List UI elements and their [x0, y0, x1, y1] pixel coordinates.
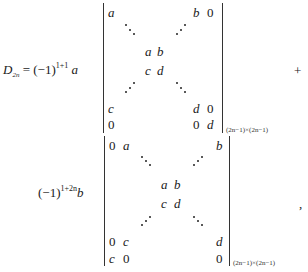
m2-ddots-tl	[145, 160, 147, 162]
lhs-symbol: D	[3, 62, 12, 77]
m1-top-b: b	[193, 6, 200, 19]
term1-coef-base: (−1)	[33, 62, 56, 77]
m2-adots-bl	[145, 220, 147, 222]
m2-adots-tr	[193, 164, 195, 166]
m1-ddots-br	[184, 91, 186, 93]
m1-center-b: b	[157, 45, 164, 58]
m1-ddots-tl	[133, 33, 135, 35]
m2-ddots-br	[193, 216, 195, 218]
m2-top-0: 0	[109, 139, 116, 152]
m1-center-c: c	[145, 64, 151, 77]
det2-size: (2n−1)×(2n−1)	[233, 259, 275, 267]
m1-adots-tr	[184, 24, 186, 26]
det1-left-bar	[103, 3, 104, 133]
m1-top-a: a	[108, 6, 115, 19]
term2-coef-base: (−1)	[38, 185, 61, 200]
m2-center-c: c	[161, 197, 167, 210]
m2-pen-c: c	[123, 235, 129, 248]
m2-adots-tr	[197, 160, 199, 162]
det2-right-bar	[229, 136, 230, 266]
m1-pen-d: d	[193, 102, 200, 115]
det2-left-bar	[104, 136, 105, 266]
m1-ddots-br	[180, 87, 182, 89]
m1-adots-bl	[125, 91, 127, 93]
trailing-comma: ,	[299, 197, 302, 210]
m2-ddots-tl	[141, 156, 143, 158]
det1-right-bar	[222, 3, 223, 133]
m1-pen-c: c	[108, 102, 114, 115]
m2-top-b: b	[216, 139, 223, 152]
m2-ddots-tl	[149, 164, 151, 166]
m2-ddots-br	[197, 220, 199, 222]
m1-ddots-tl	[129, 29, 131, 31]
m2-pen-0: 0	[109, 235, 116, 248]
term2-coef-var: b	[77, 185, 84, 200]
m1-adots-bl	[129, 87, 131, 89]
m2-adots-bl	[141, 224, 143, 226]
lhs: D2n = (−1)1+1 a	[3, 63, 78, 79]
m2-pen-d: d	[216, 235, 223, 248]
m2-top-a: a	[123, 139, 130, 152]
m2-center-a: a	[161, 178, 168, 191]
m2-adots-tr	[201, 156, 203, 158]
m2-bot-0b: 0	[216, 252, 223, 265]
m1-ddots-tl	[125, 24, 127, 26]
term1-coef-var: a	[72, 62, 79, 77]
m2-ddots-br	[201, 224, 203, 226]
m1-bot-0a: 0	[108, 118, 115, 131]
m1-pen-0: 0	[207, 102, 214, 115]
equals-sign: =	[23, 62, 30, 77]
m2-bot-c: c	[109, 252, 115, 265]
m1-top-0: 0	[207, 6, 214, 19]
plus-operator: +	[294, 64, 301, 77]
m2-adots-bl	[149, 216, 151, 218]
lhs-subscript: 2n	[12, 71, 19, 79]
m2-center-d: d	[174, 197, 181, 210]
term2-coef-exp: 1+2n	[61, 184, 78, 193]
m1-center-a: a	[145, 45, 152, 58]
m1-center-d: d	[157, 64, 164, 77]
m1-adots-tr	[180, 29, 182, 31]
term1-coef-exp: 1+1	[56, 61, 69, 70]
det1-size: (2n−1)×(2n−1)	[226, 126, 268, 134]
term2-coef: (−1)1+2nb	[38, 186, 84, 201]
m1-bot-0b: 0	[193, 118, 200, 131]
m2-bot-0a: 0	[123, 252, 130, 265]
m2-center-b: b	[174, 178, 181, 191]
m1-ddots-br	[176, 82, 178, 84]
m1-bot-d: d	[207, 118, 214, 131]
m1-adots-tr	[176, 33, 178, 35]
m1-adots-bl	[133, 82, 135, 84]
